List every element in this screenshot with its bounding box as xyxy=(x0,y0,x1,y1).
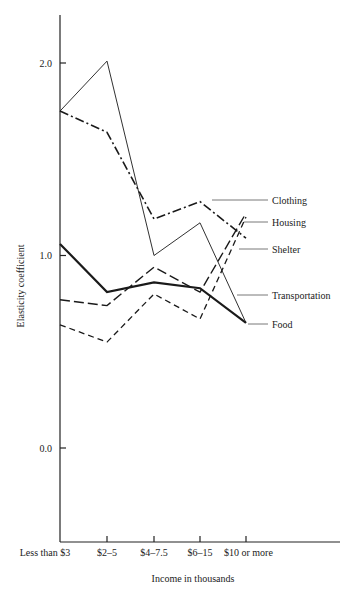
series-line-housing xyxy=(60,213,246,305)
series-label-shelter: Shelter xyxy=(272,244,301,255)
y-ticks: 0.01.02.0 xyxy=(40,58,67,454)
elasticity-line-chart: 0.01.02.0 Less than $3$2–5$4–7.5$6–15$10… xyxy=(0,0,361,590)
x-axis-title: Income in thousands xyxy=(152,573,235,584)
series-labels: ClothingHousingShelterTransportationFood xyxy=(212,195,331,330)
series-lines xyxy=(60,61,246,342)
series-label-housing: Housing xyxy=(272,217,306,228)
series-label-food: Food xyxy=(272,319,293,330)
y-tick-label: 2.0 xyxy=(40,58,53,69)
series-line-shelter xyxy=(60,217,246,342)
series-label-transportation: Transportation xyxy=(272,290,331,301)
series-line-food xyxy=(60,244,246,323)
y-axis-title: Elasticity coefficient xyxy=(15,244,26,327)
x-tick-label: $2–5 xyxy=(97,547,117,558)
x-tick-label: $6–15 xyxy=(188,547,213,558)
y-tick-label: 1.0 xyxy=(40,250,53,261)
series-label-clothing: Clothing xyxy=(272,195,307,206)
x-ticks: Less than $3$2–5$4–7.5$6–15$10 or more xyxy=(20,536,274,558)
x-tick-label: Less than $3 xyxy=(20,547,71,558)
x-tick-label: $4–7.5 xyxy=(140,547,168,558)
axes xyxy=(60,15,340,542)
series-line-clothing xyxy=(60,111,246,238)
x-tick-label: $10 or more xyxy=(224,547,273,558)
y-tick-label: 0.0 xyxy=(40,443,53,454)
